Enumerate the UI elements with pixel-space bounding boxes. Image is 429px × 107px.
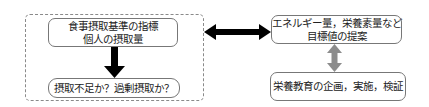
nutrition-education-text: 栄養教育の企画，実施，検証	[273, 80, 403, 93]
nutrition-education-box: 栄養教育の企画，実施，検証	[270, 72, 406, 101]
